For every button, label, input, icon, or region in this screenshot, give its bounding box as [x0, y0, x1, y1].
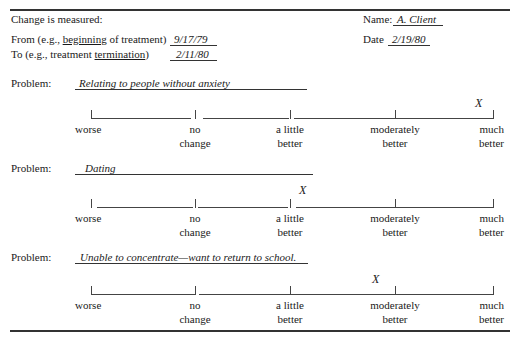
- label-moderately-better: moderatelybetter: [355, 122, 435, 150]
- label-a-little-better: a littlebetter: [260, 211, 320, 239]
- rating-mark: X: [475, 96, 482, 111]
- from-date-field: 9/17/79: [170, 33, 217, 46]
- scale-segment: [203, 118, 289, 119]
- problem-1-text: Relating to people without anxiety: [75, 77, 307, 90]
- label-no-change: nochange: [165, 211, 225, 239]
- tick-a-little-better: [290, 110, 291, 119]
- tick-a-little-better: [290, 199, 291, 208]
- to-row: To (e.g., treatment termination): [11, 48, 149, 60]
- from-suffix: of treatment): [107, 33, 167, 45]
- from-row: From (e.g., beginning of treatment): [11, 33, 167, 45]
- top-rule: [10, 9, 510, 11]
- tick-moderately-better: [395, 286, 396, 295]
- scale-segment: [91, 294, 195, 295]
- rating-scale-1: X worse nochange a littlebetter moderate…: [0, 110, 514, 170]
- label-worse: worse: [75, 211, 101, 225]
- scale-segment: [198, 207, 288, 208]
- scale-segment: [97, 207, 193, 208]
- tick-much-better: [493, 286, 494, 295]
- from-prefix: From (e.g.,: [11, 33, 63, 45]
- date-label: Date: [363, 33, 384, 45]
- label-moderately-better: moderatelybetter: [355, 211, 435, 239]
- label-no-change: nochange: [165, 298, 225, 326]
- tick-no-change: [195, 199, 196, 208]
- name-field: A. Client: [393, 13, 443, 26]
- scale-segment: [199, 294, 290, 295]
- label-a-little-better: a littlebetter: [260, 298, 320, 326]
- label-much-better: muchbetter: [454, 298, 504, 326]
- label-no-change: nochange: [165, 122, 225, 150]
- problem-2-text: Dating: [75, 162, 313, 175]
- tick-much-better: [493, 110, 494, 119]
- bottom-rule: [10, 330, 510, 332]
- tick-moderately-better: [395, 199, 396, 208]
- tick-no-change: [195, 286, 196, 295]
- label-a-little-better: a littlebetter: [260, 122, 320, 150]
- label-much-better: muchbetter: [454, 122, 504, 150]
- label-worse: worse: [75, 122, 101, 136]
- label-much-better: muchbetter: [454, 211, 504, 239]
- to-prefix: To (e.g., treatment: [11, 48, 95, 60]
- name-label: Name:: [363, 13, 392, 25]
- tick-much-better: [493, 199, 494, 208]
- date-field: 2/19/80: [388, 33, 430, 46]
- to-date-field: 2/11/80: [170, 48, 217, 61]
- scale-segment: [294, 118, 494, 119]
- problem-3-label: Problem:: [11, 251, 51, 263]
- scale-segment: [91, 118, 191, 119]
- change-measured-label: Change is measured:: [11, 13, 103, 25]
- problem-1-label: Problem:: [11, 77, 51, 89]
- rating-mark: X: [372, 272, 379, 287]
- problem-2-label: Problem:: [11, 162, 51, 174]
- label-moderately-better: moderatelybetter: [355, 298, 435, 326]
- scale-segment: [290, 294, 493, 295]
- tick-moderately-better: [395, 110, 396, 119]
- rating-mark: X: [299, 183, 306, 198]
- to-underlined: termination: [95, 48, 146, 60]
- tick-no-change: [195, 110, 196, 119]
- from-underlined: beginning: [63, 33, 107, 45]
- to-suffix: ): [145, 48, 149, 60]
- label-worse: worse: [75, 298, 101, 312]
- problem-3-text: Unable to concentrate—want to return to …: [75, 251, 308, 264]
- rating-scale-2: X worse nochange a littlebetter moderate…: [0, 199, 514, 259]
- tick-worse: [91, 199, 92, 208]
